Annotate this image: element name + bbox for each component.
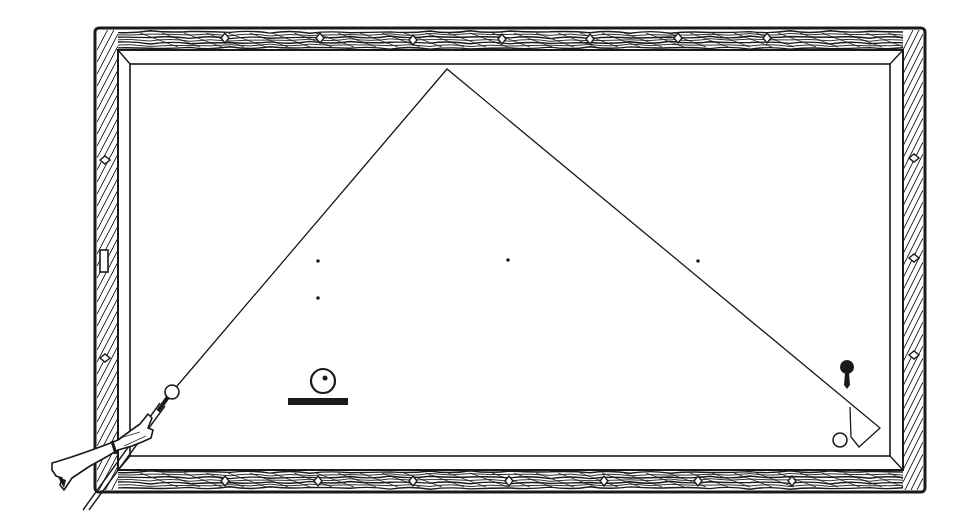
- left-rail-marker: [100, 250, 108, 272]
- billiards-diagram: Billiards diamond-system shot diagram: [0, 0, 975, 523]
- table-frame: [95, 28, 925, 492]
- diagram-canvas: [0, 0, 975, 523]
- second-object-ball: [833, 433, 847, 447]
